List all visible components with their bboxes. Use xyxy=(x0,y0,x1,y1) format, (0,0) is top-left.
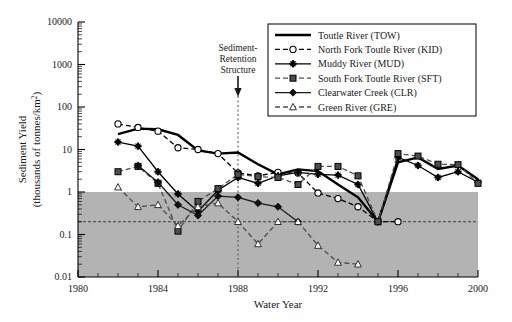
data-point-marker xyxy=(235,171,241,177)
sediment-structure-label-line1: Sediment- xyxy=(218,43,257,53)
sediment-yield-chart: 0.010.1110100100010000198019841988199219… xyxy=(0,0,512,322)
y-tick-label: 1000 xyxy=(52,59,72,70)
y-tick-label: 0.01 xyxy=(55,271,73,282)
y-axis-title-line2: (thousands of tonnes/km2) xyxy=(30,91,44,207)
x-axis-title: Water Year xyxy=(254,298,303,310)
data-point-marker xyxy=(355,204,361,210)
data-point-marker xyxy=(290,75,296,81)
legend-label: South Fork Toutle River (SFT) xyxy=(318,73,442,85)
y-tick-label: 0.1 xyxy=(60,229,73,240)
y-tick-label: 1 xyxy=(67,186,72,197)
data-point-marker xyxy=(335,163,341,169)
x-tick-label: 1980 xyxy=(68,283,88,294)
sediment-structure-label-line3: Structure xyxy=(221,65,256,75)
data-point-marker xyxy=(175,145,181,151)
data-point-marker xyxy=(255,174,261,180)
data-point-marker xyxy=(315,190,321,196)
legend-label: North Fork Toutle River (KID) xyxy=(318,44,442,56)
y-tick-label: 10000 xyxy=(47,16,72,27)
data-point-marker xyxy=(455,162,461,168)
data-point-marker xyxy=(335,195,341,201)
data-point-marker xyxy=(135,124,141,130)
data-point-marker xyxy=(355,173,361,179)
data-point-marker xyxy=(195,146,201,152)
sediment-structure-label-line2: Retention xyxy=(220,54,257,64)
data-point-marker xyxy=(315,163,321,169)
data-point-marker xyxy=(115,121,121,127)
data-point-marker xyxy=(395,219,401,225)
data-point-marker xyxy=(295,182,301,188)
data-point-marker xyxy=(395,151,401,157)
legend-label: Muddy River (MUD) xyxy=(318,58,404,70)
y-tick-label: 10 xyxy=(62,144,72,155)
legend-label: Toutle River (TOW) xyxy=(318,30,400,42)
x-tick-label: 2000 xyxy=(468,283,488,294)
data-point-marker xyxy=(155,128,161,134)
x-tick-label: 1984 xyxy=(148,283,168,294)
data-point-marker xyxy=(475,180,481,186)
data-point-marker xyxy=(375,219,381,225)
y-axis-title-line1: Sediment Yield xyxy=(16,115,28,183)
data-point-marker xyxy=(215,186,221,192)
x-tick-label: 1988 xyxy=(228,283,248,294)
y-tick-label: 100 xyxy=(57,101,72,112)
data-point-marker xyxy=(435,161,441,167)
x-tick-label: 1996 xyxy=(388,283,408,294)
data-point-marker xyxy=(415,153,421,159)
legend-label: Clearwater Creek (CLR) xyxy=(318,87,417,99)
data-point-marker xyxy=(115,169,121,175)
data-point-marker xyxy=(290,46,296,52)
legend-label: Green River (GRE) xyxy=(318,102,396,114)
x-tick-label: 1992 xyxy=(308,283,328,294)
data-point-marker xyxy=(215,151,221,157)
data-point-marker xyxy=(275,174,281,180)
